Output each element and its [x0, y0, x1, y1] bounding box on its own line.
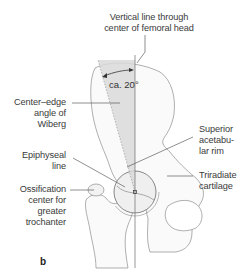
- obturator-foramen: [165, 200, 202, 230]
- label-triradiate-cartilage: Triradiate cartilage: [199, 170, 246, 192]
- label-center-edge-angle: Center–edge angle of Wiberg: [0, 97, 66, 130]
- angle-value-label: ca. 20°: [109, 79, 139, 90]
- label-superior-rim: Superior acetabu- lar rim: [199, 124, 246, 157]
- panel-letter: b: [40, 256, 46, 267]
- leader-vertical-line: [137, 35, 145, 63]
- label-ossification-center: Ossification center for greater trochant…: [0, 184, 66, 228]
- label-vertical-line: Vertical line through center of femoral …: [94, 12, 204, 34]
- label-epiphyseal-line: Epiphyseal line: [0, 150, 66, 172]
- hip-diagram: Vertical line through center of femoral …: [0, 0, 246, 278]
